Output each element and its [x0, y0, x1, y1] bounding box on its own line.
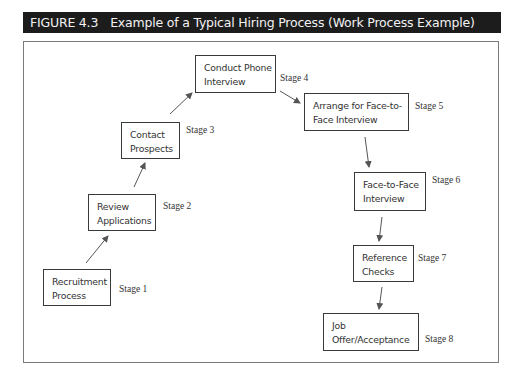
- box-label-line2: Offer/Acceptance: [332, 333, 418, 347]
- stage-label-6: Stage 6: [432, 175, 460, 185]
- arrow-stage5-to-stage6: [365, 137, 369, 167]
- arrow-stage2-to-stage3: [134, 163, 145, 187]
- box-label-line1: Arrange for Face-to-: [313, 99, 408, 113]
- box-label-line1: Review: [97, 200, 155, 214]
- stage-label-5: Stage 5: [415, 101, 443, 111]
- arrow-stage4-to-stage5: [280, 91, 300, 103]
- process-box-reference-checks: Reference Checks: [353, 245, 414, 282]
- stage-label-3: Stage 3: [186, 125, 214, 135]
- process-box-recruitment: Recruitment Process: [43, 269, 111, 306]
- arrow-stage3-to-stage4: [170, 93, 192, 114]
- box-label-line2: Interview: [204, 75, 275, 89]
- stage-label-4: Stage 4: [280, 73, 308, 83]
- stage-label-2: Stage 2: [163, 201, 191, 211]
- box-label-line1: Contact: [130, 128, 179, 142]
- process-box-contact-prospects: Contact Prospects: [121, 122, 180, 159]
- process-box-arrange-interview: Arrange for Face-to- Face Interview: [304, 93, 409, 131]
- box-label-line1: Face-to-Face: [363, 178, 425, 192]
- arrow-stage6-to-stage7: [379, 217, 382, 241]
- box-label-line1: Job: [332, 319, 418, 333]
- box-label-line2: Interview: [363, 192, 425, 206]
- stage-label-1: Stage 1: [119, 284, 147, 294]
- box-label-line1: Recruitment: [52, 275, 110, 289]
- process-box-job-offer: Job Offer/Acceptance: [323, 313, 419, 351]
- stage-label-7: Stage 7: [418, 253, 446, 263]
- process-box-review-applications: Review Applications: [88, 194, 156, 231]
- box-label-line1: Conduct Phone: [204, 61, 275, 75]
- stage-label-8: Stage 8: [425, 334, 453, 344]
- arrow-stage7-to-stage8: [379, 287, 382, 309]
- box-label-line2: Checks: [362, 265, 413, 279]
- box-label-line2: Applications: [97, 214, 155, 228]
- box-label-line2: Face Interview: [313, 113, 408, 127]
- process-box-phone-interview: Conduct Phone Interview: [195, 55, 276, 93]
- arrow-stage1-to-stage2: [86, 236, 108, 263]
- box-label-line2: Process: [52, 289, 110, 303]
- box-label-line2: Prospects: [130, 142, 179, 156]
- process-box-face-to-face-interview: Face-to-Face Interview: [354, 172, 426, 211]
- box-label-line1: Reference: [362, 251, 413, 265]
